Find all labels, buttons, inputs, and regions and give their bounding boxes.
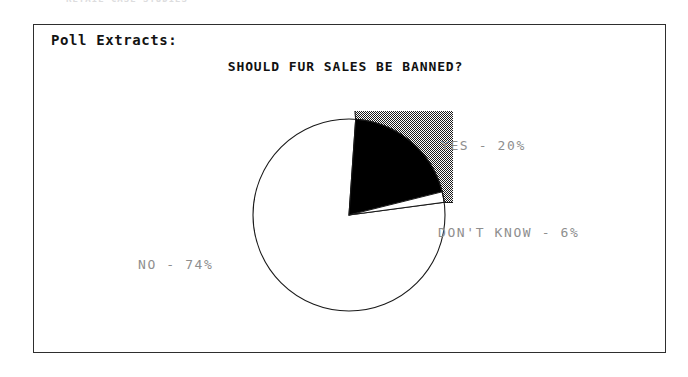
poll-extracts-heading: Poll Extracts: bbox=[51, 32, 177, 48]
pie-label-no: NO - 74% bbox=[138, 257, 213, 272]
pie-label-yes: YES - 20% bbox=[441, 138, 526, 153]
scan-top-clipped-text: RETAIL CASE STUDIES bbox=[66, 0, 216, 3]
poll-extract-frame: Poll Extracts: SHOULD FUR SALES BE BANNE… bbox=[33, 24, 666, 353]
chart-title: SHOULD FUR SALES BE BANNED? bbox=[34, 59, 665, 74]
pie-chart bbox=[245, 111, 453, 319]
chart-title-text: SHOULD FUR SALES BE BANNED? bbox=[228, 59, 464, 74]
pie-label-dont-know: DON'T KNOW - 6% bbox=[438, 225, 579, 240]
